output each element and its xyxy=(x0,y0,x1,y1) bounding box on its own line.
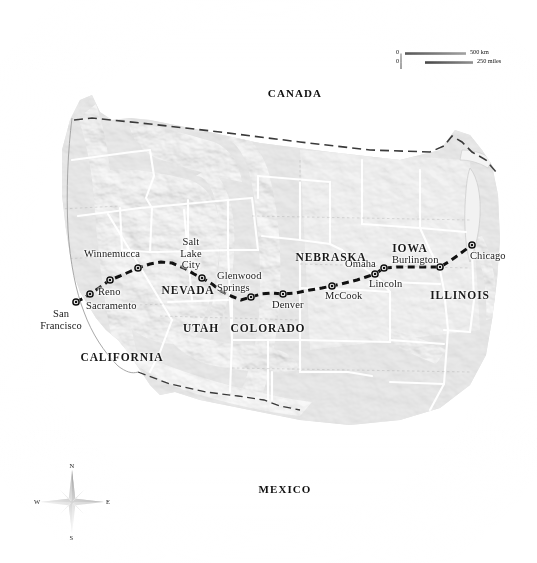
map-container: SanFranciscoSacramentoRenoWinnemuccaSalt… xyxy=(0,0,537,563)
top-fade xyxy=(0,0,537,70)
bottom-fade xyxy=(0,430,537,563)
map-canvas xyxy=(0,0,537,563)
